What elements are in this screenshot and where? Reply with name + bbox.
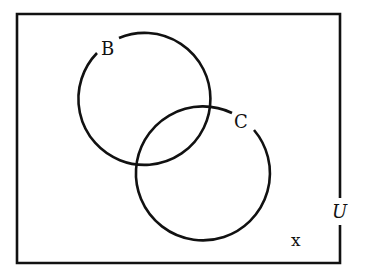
set-c-circle [136,106,270,240]
universe-label: U [332,201,348,222]
venn-diagram: B C U x [0,0,368,271]
set-b-circle [78,33,210,165]
universe-rectangle [17,14,340,263]
set-b-label: B [101,38,114,59]
set-c-label: C [234,111,248,132]
element-x-label: x [291,230,301,250]
